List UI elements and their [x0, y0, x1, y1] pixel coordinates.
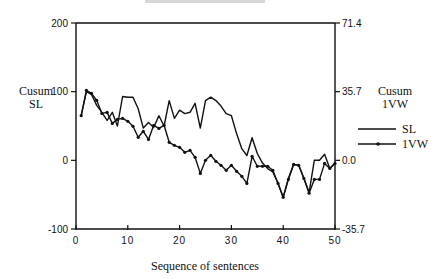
left-tick-label: -100 [48, 224, 68, 235]
data-point-marker [219, 164, 222, 167]
left-axis-label-line1: Cusum [19, 84, 54, 98]
data-point-marker [152, 124, 155, 127]
data-point-marker [111, 122, 114, 125]
data-point-marker [106, 111, 109, 114]
data-point-marker [313, 178, 316, 181]
series-1vw-path [81, 90, 335, 197]
data-point-marker [323, 162, 326, 165]
legend: SL 1VW [358, 122, 429, 151]
data-point-marker [142, 130, 145, 133]
x-tick-label: 0 [73, 235, 80, 246]
data-point-marker [116, 118, 119, 121]
legend-sl-label: SL [402, 122, 416, 136]
left-tick-label: 200 [51, 18, 68, 29]
data-point-marker [256, 165, 259, 168]
data-point-marker [308, 192, 311, 195]
data-point-marker [204, 159, 207, 162]
data-point-marker [235, 170, 238, 173]
data-point-marker [188, 149, 191, 152]
right-tick-label: -35.7 [342, 224, 365, 235]
right-tick-label: 35.7 [342, 86, 362, 97]
x-tick-label: 10 [121, 235, 134, 246]
data-point-marker [297, 164, 300, 167]
legend-1vw-label: 1VW [402, 137, 429, 151]
data-point-marker [131, 125, 134, 128]
data-point-marker [121, 117, 124, 120]
left-axis-label-line2: SL [29, 97, 43, 111]
data-point-marker [261, 165, 264, 168]
data-point-marker [282, 196, 285, 199]
data-point-marker [126, 120, 129, 123]
data-point-marker [302, 177, 305, 180]
data-point-marker [157, 127, 160, 130]
left-tick-label: 100 [51, 86, 68, 97]
data-point-marker [80, 114, 83, 117]
data-point-marker [287, 178, 290, 181]
axes: -1000100200-35.70.035.771.401020304050 [48, 18, 365, 247]
data-point-marker [271, 169, 274, 172]
data-point-marker [147, 138, 150, 141]
data-point-marker [173, 144, 176, 147]
data-point-marker [178, 146, 181, 149]
right-tick-label: 0.0 [342, 155, 356, 166]
cusum-chart: -1000100200-35.70.035.771.401020304050 C… [0, 0, 438, 279]
series-1vw-line [80, 89, 337, 199]
data-point-marker [230, 164, 233, 167]
series-sl-path [81, 92, 335, 198]
data-point-marker [199, 172, 202, 175]
data-point-marker [137, 136, 140, 139]
data-point-marker [168, 141, 171, 144]
data-point-marker [276, 182, 279, 185]
x-tick-label: 20 [173, 235, 186, 246]
data-point-marker [225, 169, 228, 172]
x-tick-label: 40 [277, 235, 290, 246]
data-point-marker [245, 182, 248, 185]
data-point-marker [209, 154, 212, 157]
data-point-marker [292, 163, 295, 166]
data-point-marker [194, 156, 197, 159]
series-sl-line [81, 92, 335, 198]
data-point-marker [85, 89, 88, 92]
x-axis-label: Sequence of sentences [151, 259, 259, 273]
right-axis-label-line2: 1VW [382, 97, 409, 111]
left-tick-label: 0 [62, 155, 68, 166]
data-point-marker [163, 124, 166, 127]
data-point-marker [90, 92, 93, 95]
x-tick-label: 30 [225, 235, 238, 246]
data-point-marker [318, 178, 321, 181]
data-point-marker [183, 151, 186, 154]
data-point-marker [251, 155, 254, 158]
x-tick-label: 50 [328, 235, 341, 246]
data-point-marker [240, 175, 243, 178]
legend-1vw-marker [376, 142, 380, 146]
data-point-marker [214, 160, 217, 163]
data-point-marker [328, 167, 331, 170]
right-axis-label-line1: Cusum [378, 84, 413, 98]
data-point-marker [266, 165, 269, 168]
data-point-marker [333, 162, 336, 165]
title-remnant [145, 0, 265, 3]
right-tick-label: 71.4 [342, 18, 362, 29]
data-point-marker [95, 99, 98, 102]
data-point-marker [100, 112, 103, 115]
